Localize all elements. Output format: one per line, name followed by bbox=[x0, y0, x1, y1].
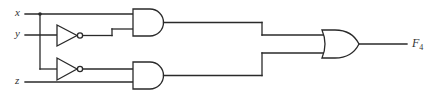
input-label-y: y bbox=[15, 28, 20, 39]
or-gate bbox=[322, 30, 359, 58]
and-gate-1 bbox=[133, 9, 164, 36]
wire-not1-out bbox=[83, 29, 133, 36]
not-gate-2 bbox=[57, 58, 83, 80]
logic-circuit-diagram: x y z F4 bbox=[0, 0, 434, 101]
not-gate-1 bbox=[57, 25, 83, 46]
and-gate-2 bbox=[133, 62, 164, 89]
output-label: F4 bbox=[412, 37, 423, 52]
input-label-z: z bbox=[15, 75, 19, 86]
output-label-subscript: 4 bbox=[419, 43, 423, 52]
wire-and2-out bbox=[164, 53, 326, 76]
wire-x-branch bbox=[40, 14, 57, 69]
input-label-x: x bbox=[15, 7, 20, 18]
wire-and1-out bbox=[164, 23, 326, 36]
